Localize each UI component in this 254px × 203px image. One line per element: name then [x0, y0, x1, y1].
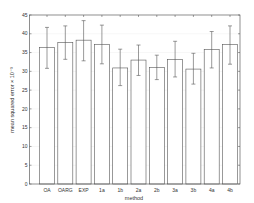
x-tick-label: 4b — [227, 187, 233, 193]
bars — [40, 21, 238, 184]
y-tick-label: 30 — [22, 68, 28, 74]
bar — [223, 45, 238, 184]
y-tick-label: 20 — [22, 106, 28, 112]
x-tick-label: 3a — [172, 187, 178, 193]
x-tick-label: OA — [43, 187, 51, 193]
y-axis-label: mean squared error × 10⁻³ — [9, 67, 15, 133]
x-tick-label: 4a — [209, 187, 215, 193]
y-tick-label: 0 — [25, 181, 28, 187]
x-tick-label: 1a — [99, 187, 105, 193]
y-tick-label: 35 — [22, 49, 28, 55]
bar — [204, 50, 219, 184]
y-tick-label: 40 — [22, 30, 28, 36]
bar — [58, 42, 73, 184]
x-tick-label: 2a — [136, 187, 142, 193]
x-axis-label: method — [125, 195, 143, 201]
bar-chart: 051015202530354045OAOARGEXP1a1b2a2b3a3b4… — [0, 0, 254, 203]
x-tick-label: 2b — [154, 187, 160, 193]
y-tick-label: 15 — [22, 124, 28, 130]
bar — [94, 44, 109, 184]
bar — [168, 59, 183, 184]
x-tick-label: EXP — [79, 187, 90, 193]
y-tick-label: 25 — [22, 87, 28, 93]
y-tick-label: 45 — [22, 12, 28, 18]
x-tick-label: 3b — [191, 187, 197, 193]
bar — [186, 69, 201, 184]
x-tick-label: OARG — [58, 187, 73, 193]
y-tick-label: 5 — [25, 162, 28, 168]
bar — [131, 60, 146, 184]
x-tick-label: 1b — [117, 187, 123, 193]
bar — [76, 40, 91, 184]
bar — [149, 68, 164, 184]
y-tick-label: 10 — [22, 143, 28, 149]
